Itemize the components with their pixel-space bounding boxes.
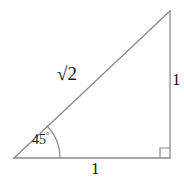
triangle-diagram: √2 1 1 45° — [0, 0, 184, 177]
angle-value: 45 — [32, 132, 46, 147]
vertical-leg-label: 1 — [172, 71, 181, 88]
triangle-figure-svg — [0, 0, 184, 177]
radical-sign-icon: √2 — [57, 63, 77, 84]
base-leg-label: 1 — [91, 160, 100, 177]
right-angle-marker — [160, 148, 170, 158]
degree-symbol-icon: ° — [46, 130, 50, 140]
radical-group: √2 — [56, 64, 77, 83]
hypotenuse-label: √2 — [56, 64, 77, 83]
angle-label: 45° — [32, 131, 50, 147]
